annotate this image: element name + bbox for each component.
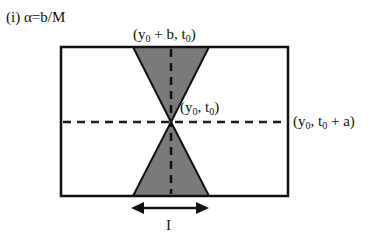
top-point-label: (y0 + b, t0) (133, 27, 196, 42)
center-point-label: (y0, t0) (180, 100, 219, 115)
interval-label: I (166, 218, 171, 233)
right-point-label: (y0, t0 + a) (293, 114, 355, 129)
arrowhead-right-icon (196, 202, 209, 214)
interval-arrow (131, 202, 209, 214)
arrowhead-left-icon (131, 202, 144, 214)
